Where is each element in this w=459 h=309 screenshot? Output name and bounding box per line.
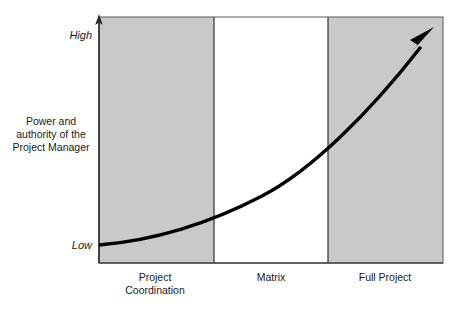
band-project-coordination xyxy=(99,17,214,263)
y-axis-title-line-2: authority of the xyxy=(8,128,94,141)
x-axis-label-line-1: Full Project xyxy=(335,271,435,284)
band-full-project xyxy=(328,17,443,263)
x-axis-label-line-1: Matrix xyxy=(221,271,321,284)
y-axis-title-line-3: Project Manager xyxy=(8,141,94,154)
x-axis-label-line-2: Coordination xyxy=(105,284,205,297)
y-axis-low-label: Low xyxy=(0,239,92,251)
y-axis-high-label: High xyxy=(0,29,92,41)
diagram-figure: High Low Power and authority of the Proj… xyxy=(0,0,459,309)
plot-area xyxy=(0,0,459,309)
band-matrix xyxy=(214,17,328,263)
x-axis-label-project-coordination: Project Coordination xyxy=(105,271,205,297)
x-axis-label-matrix: Matrix xyxy=(221,271,321,284)
x-axis-label-full-project: Full Project xyxy=(335,271,435,284)
x-axis-label-line-1: Project xyxy=(105,271,205,284)
y-axis-title-line-1: Power and xyxy=(8,115,94,128)
y-axis-title: Power and authority of the Project Manag… xyxy=(8,115,94,154)
